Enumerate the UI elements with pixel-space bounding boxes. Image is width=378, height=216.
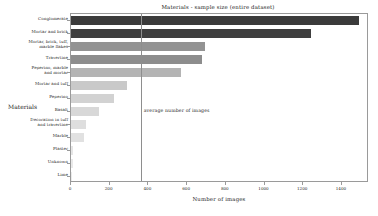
bar-row xyxy=(71,172,367,180)
bar-row xyxy=(71,16,367,24)
y-tick-mark xyxy=(67,124,70,125)
y-tick-label: Peperino, marble and mortar xyxy=(32,66,68,76)
x-tick-mark xyxy=(264,182,265,185)
bar-row xyxy=(71,94,367,102)
x-tick-mark xyxy=(70,182,71,185)
bar xyxy=(71,29,311,37)
y-tick-label: Decoration in tuff and travertine xyxy=(30,118,68,128)
bar xyxy=(71,133,84,141)
y-tick-label: Mortar and brick xyxy=(32,30,68,35)
chart-title: Materials - sample size (entire dataset) xyxy=(62,4,374,10)
bar xyxy=(71,81,127,89)
x-tick-label: 400 xyxy=(137,186,157,191)
y-tick-mark xyxy=(67,111,70,112)
plot-area xyxy=(70,13,368,182)
y-axis-title: Materials xyxy=(8,103,37,110)
bar-row xyxy=(71,146,367,154)
bar xyxy=(71,120,86,128)
x-tick-mark xyxy=(302,182,303,185)
x-tick-label: 0 xyxy=(60,186,80,191)
bar xyxy=(71,159,73,167)
y-tick-mark xyxy=(67,176,70,177)
y-tick-mark xyxy=(67,85,70,86)
bar-row xyxy=(71,81,367,89)
bar-row xyxy=(71,42,367,50)
x-tick-mark xyxy=(341,182,342,185)
bar xyxy=(71,55,202,63)
bar xyxy=(71,16,359,24)
bars-layer xyxy=(71,14,367,181)
y-tick-label: Marble xyxy=(53,134,68,139)
y-tick-mark xyxy=(67,163,70,164)
x-tick-mark xyxy=(225,182,226,185)
x-tick-mark xyxy=(109,182,110,185)
y-tick-label: Peperino xyxy=(49,95,68,100)
bar-row xyxy=(71,29,367,37)
x-tick-label: 1000 xyxy=(254,186,274,191)
y-tick-label: Basalt xyxy=(55,108,68,113)
bar xyxy=(71,42,205,50)
y-tick-label: Plaster xyxy=(53,147,68,152)
bar xyxy=(71,172,72,180)
y-tick-mark xyxy=(67,72,70,73)
y-tick-label: Mortar and tuff xyxy=(35,82,68,87)
y-tick-label: Travertine xyxy=(46,56,68,61)
y-tick-mark xyxy=(67,46,70,47)
y-tick-label: Unknown xyxy=(48,160,68,165)
x-axis-title: Number of images xyxy=(70,196,368,202)
x-tick-label: 200 xyxy=(99,186,119,191)
bar xyxy=(71,146,73,154)
bar-row xyxy=(71,68,367,76)
y-tick-mark xyxy=(67,20,70,21)
x-tick-mark xyxy=(186,182,187,185)
x-tick-mark xyxy=(147,182,148,185)
bar xyxy=(71,107,99,115)
bar-row xyxy=(71,133,367,141)
bar-row xyxy=(71,120,367,128)
x-tick-label: 600 xyxy=(176,186,196,191)
average-reference-line xyxy=(141,14,142,181)
bar-row xyxy=(71,107,367,115)
average-line-label: average number of images xyxy=(144,108,210,113)
x-tick-label: 800 xyxy=(215,186,235,191)
y-tick-label: Conglomerate xyxy=(38,17,68,22)
y-tick-mark xyxy=(67,150,70,151)
bar-row xyxy=(71,159,367,167)
y-tick-label: Mortar, brick, tuff, marble flakes xyxy=(28,40,68,50)
chart-figure: Materials - sample size (entire dataset)… xyxy=(0,0,378,216)
x-tick-label: 1400 xyxy=(331,186,351,191)
y-tick-mark xyxy=(67,59,70,60)
x-tick-label: 1200 xyxy=(292,186,312,191)
bar-row xyxy=(71,55,367,63)
y-tick-mark xyxy=(67,137,70,138)
bar xyxy=(71,94,114,102)
bar xyxy=(71,68,181,76)
y-tick-mark xyxy=(67,33,70,34)
y-tick-mark xyxy=(67,98,70,99)
